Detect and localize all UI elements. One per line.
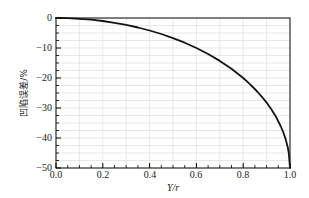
x-tick-label-10: 1.0 (284, 170, 297, 180)
x-tick-label-00: 0.0 (50, 170, 63, 180)
x-tick-label-08: 0.8 (237, 170, 250, 180)
y-tick-label-50: −50 (16, 163, 52, 173)
y-tick-label-20: −20 (16, 73, 52, 83)
line-chart: 凹陷误差/% 0 −10 −20 −30 −40 −50 0.0 0.2 0.4… (0, 0, 309, 198)
x-tick-label-06: 0.6 (190, 170, 203, 180)
x-tick-label-02: 0.2 (97, 170, 110, 180)
y-tick-label-30: −30 (16, 103, 52, 113)
x-tick-label-04: 0.4 (144, 170, 157, 180)
y-tick-label-10: −10 (16, 43, 52, 53)
y-tick-label-0: 0 (16, 13, 52, 23)
y-tick-label-40: −40 (16, 133, 52, 143)
x-axis-title: Y/r (167, 182, 179, 193)
